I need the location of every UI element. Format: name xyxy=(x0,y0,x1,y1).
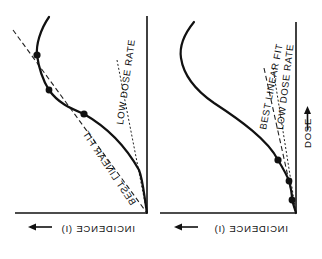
right-panel: BEST LINEAR FIT LOW DOSE RATE DOSE INCID… xyxy=(160,22,313,234)
right-incidence-label-group: INCIDENCE (I) xyxy=(174,223,288,234)
right-data-point xyxy=(289,197,296,204)
left-data-point xyxy=(46,87,53,94)
up-arrow-icon xyxy=(304,106,311,114)
dose-response-figure: BEST LINEAR FIT LOW DOSE RATE INCIDENCE … xyxy=(0,0,322,259)
left-panel: BEST LINEAR FIT LOW DOSE RATE INCIDENCE … xyxy=(13,16,147,234)
right-data-point xyxy=(286,178,293,185)
left-arrow-icon xyxy=(28,224,36,231)
left-incidence-label: INCIDENCE (I) xyxy=(61,223,135,234)
right-data-point xyxy=(274,156,281,163)
left-low-dose-rate-label: LOW DOSE RATE xyxy=(114,38,137,125)
right-dose-label-group: DOSE xyxy=(302,106,313,148)
left-best-linear-fit-label: BEST LINEAR FIT xyxy=(80,128,138,207)
left-data-point xyxy=(80,110,87,117)
left-data-point xyxy=(33,51,40,58)
left-incidence-label-group: INCIDENCE (I) xyxy=(28,223,135,234)
right-incidence-label: INCIDENCE (I) xyxy=(214,223,288,234)
left-arrow-icon xyxy=(174,224,182,231)
